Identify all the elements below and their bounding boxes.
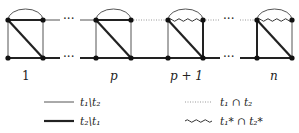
block-label-1: 1	[22, 69, 30, 83]
legend: t₁\t₂ t₂\t₁ t₁ ∩ t₂ t₁* ∩ t₂*	[44, 96, 264, 127]
legend-label-dotted: t₁ ∩ t₂	[220, 96, 252, 108]
block-n	[254, 9, 294, 61]
legend-label-wavy: t₁* ∩ t₂*	[220, 115, 264, 127]
ellipsis-top-2: ···	[223, 12, 234, 26]
graph-diagram: ··· ··· ··· ···	[0, 0, 299, 133]
block-p-plus-1	[165, 9, 205, 61]
block-label-n: n	[270, 69, 278, 83]
legend-item-dotted: t₁ ∩ t₂	[185, 96, 252, 108]
legend-item-thin: t₁\t₂	[44, 96, 100, 108]
legend-item-thick: t₂\t₁	[44, 115, 100, 127]
wavy-line-swatch	[185, 120, 212, 123]
ellipsis-top-1: ···	[63, 12, 74, 26]
ellipsis-bottom-1: ···	[63, 50, 74, 64]
block-label-p: p	[110, 69, 118, 83]
legend-item-wavy: t₁* ∩ t₂*	[185, 115, 264, 127]
block-1	[5, 9, 45, 61]
ellipsis-bottom-2: ···	[223, 50, 234, 64]
block-p	[93, 9, 133, 61]
legend-label-thin: t₁\t₂	[80, 96, 100, 108]
legend-label-thick: t₂\t₁	[80, 115, 100, 127]
block-label-p-plus-1: p + 1	[170, 69, 203, 83]
